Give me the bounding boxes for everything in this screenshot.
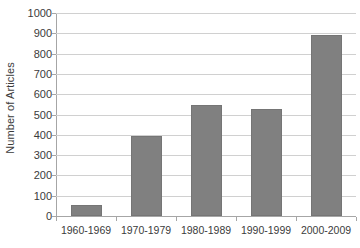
x-axis-tick-mark <box>176 217 177 221</box>
bar <box>311 35 342 216</box>
y-axis-tick-mark <box>52 13 56 14</box>
y-axis-tick-label: 200 <box>18 169 52 181</box>
bar-chart: Number of Articles 010020030040050060070… <box>0 0 360 248</box>
y-axis-tick-label: 800 <box>18 48 52 60</box>
y-axis-title-text: Number of Articles <box>4 62 16 154</box>
x-axis-tick-label: 1960-1969 <box>61 224 111 236</box>
x-axis-tick-label: 1990-1999 <box>241 224 291 236</box>
y-axis-tick-mark <box>52 135 56 136</box>
y-axis-tick-mark <box>52 155 56 156</box>
y-axis-tick-label: 300 <box>18 149 52 161</box>
bar <box>131 136 162 216</box>
x-axis-tick-label: 2000-2009 <box>301 224 351 236</box>
gridline <box>56 13 356 14</box>
y-axis-tick-label: 900 <box>18 27 52 39</box>
x-axis-tick-mark <box>236 217 237 221</box>
gridline <box>56 33 356 34</box>
x-axis-tick-mark <box>116 217 117 221</box>
x-axis-tick-mark <box>56 217 57 221</box>
y-axis-tick-label: 700 <box>18 68 52 80</box>
y-axis-tick-mark <box>52 115 56 116</box>
plot-area <box>56 13 356 216</box>
y-axis-tick-label: 500 <box>18 109 52 121</box>
x-axis-tick-label: 1970-1979 <box>121 224 171 236</box>
y-axis-tick-mark <box>52 175 56 176</box>
x-axis-baseline <box>56 216 356 217</box>
y-axis-tick-mark <box>52 74 56 75</box>
y-axis-tick-labels: 01002003004005006007008009001000 <box>18 13 52 216</box>
y-axis-tick-label: 100 <box>18 190 52 202</box>
y-axis-tick-mark <box>52 54 56 55</box>
y-axis-tick-mark <box>52 196 56 197</box>
x-axis-tick-labels: 1960-19691970-19791980-19891990-19992000… <box>56 224 356 242</box>
y-axis-tick-label: 600 <box>18 88 52 100</box>
bar <box>251 109 282 216</box>
x-axis-tick-mark <box>356 217 357 221</box>
x-axis-tick-mark <box>296 217 297 221</box>
y-axis-title: Number of Articles <box>0 0 20 216</box>
x-axis-tick-label: 1980-1989 <box>181 224 231 236</box>
y-axis-tick-mark <box>52 33 56 34</box>
bar <box>191 105 222 216</box>
y-axis-tick-label: 1000 <box>18 7 52 19</box>
y-axis-tick-label: 400 <box>18 129 52 141</box>
bar <box>71 205 102 216</box>
y-axis-tick-label: 0 <box>18 210 52 222</box>
y-axis-tick-mark <box>52 94 56 95</box>
